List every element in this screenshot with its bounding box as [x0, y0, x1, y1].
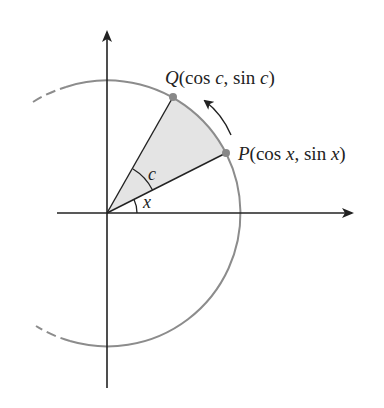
unit-circle-diagram: Q(cos c, sin c) P(cos x, sin x) c x	[0, 0, 384, 408]
angle-label-x: x	[142, 192, 151, 212]
label-Q: Q(cos c, sin c)	[165, 67, 275, 89]
point-Q	[169, 93, 177, 101]
angle-label-c: c	[148, 164, 156, 184]
circle-arc-dashed-upper	[33, 87, 66, 102]
label-P: P(cos x, sin x)	[237, 143, 346, 165]
angle-arc-x	[134, 200, 137, 214]
point-P	[222, 149, 230, 157]
shaded-sector	[107, 97, 226, 213]
circle-arc-dashed-lower	[36, 326, 70, 341]
